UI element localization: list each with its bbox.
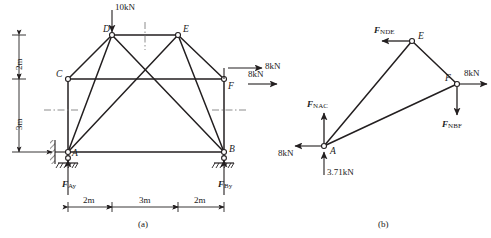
joint-b-F: [455, 82, 460, 87]
node-label-D: D: [103, 25, 110, 35]
node-label-A: A: [72, 149, 78, 159]
dim-label-3m-mid: 3m: [139, 196, 151, 205]
joint-E: [176, 33, 181, 38]
member-EF: [178, 35, 224, 79]
node-label-E: E: [183, 25, 189, 35]
reaction-subscript-Ay: Ay: [68, 182, 76, 190]
support-B-roller: [212, 156, 234, 168]
load-label-b-3p71kN: 3.71kN: [327, 168, 354, 177]
caption-a: (a): [138, 220, 148, 229]
force-subscript-NBF: NBF: [448, 122, 462, 130]
load-label-b-8kN-A: 8kN: [278, 149, 294, 158]
node-label-b-E: E: [418, 32, 424, 42]
member-b-AF: [324, 84, 457, 146]
joint-b-E: [410, 39, 415, 44]
panel-a-members: [68, 35, 224, 152]
force-label-NBF: FNBF: [442, 120, 462, 130]
reaction-subscript-By: By: [224, 182, 232, 190]
node-label-F: F: [228, 82, 234, 92]
load-label-b-8kN-right: 8kN: [464, 69, 480, 78]
caption-b: (b): [378, 220, 389, 229]
dim-label-2m-vertical: 2m: [15, 58, 24, 70]
load-label-8kN: 8kN: [265, 62, 281, 71]
reaction-label-Ay: FAy: [62, 180, 76, 190]
member-BD: [112, 35, 224, 152]
joint-b-A: [322, 144, 327, 149]
joint-A: [66, 150, 71, 155]
load-label-b-8kN-left: 8kN: [248, 70, 264, 79]
reaction-label-By: FBy: [218, 180, 232, 190]
force-label-NDE: FNDE: [374, 26, 395, 36]
vertical-dimension-chain: [12, 35, 52, 152]
node-label-b-F: F: [445, 74, 451, 84]
member-AD: [68, 35, 112, 152]
member-CD: [68, 35, 112, 79]
dim-label-2m-left: 2m: [83, 196, 95, 205]
load-label-10kN: 10kN: [115, 3, 135, 12]
joint-D: [110, 33, 115, 38]
member-BE: [178, 35, 224, 152]
force-label-NAC: FNAC: [307, 100, 328, 110]
panel-b-joints: [322, 39, 460, 149]
dim-label-2m-right: 2m: [194, 196, 206, 205]
joint-B: [222, 150, 227, 155]
dim-label-3m-vertical: 3m: [15, 118, 24, 130]
node-label-b-A: A: [330, 147, 336, 157]
joint-C: [66, 77, 71, 82]
node-label-B: B: [229, 145, 235, 155]
engineering-figure: D E C F A B 10kN 8kN FAy FBy 2m 3m 2m 3m…: [0, 0, 491, 238]
panel-b-members: [324, 41, 457, 146]
member-AE: [68, 35, 178, 152]
node-label-C: C: [56, 70, 62, 80]
force-subscript-NAC: NAC: [313, 102, 328, 110]
force-subscript-NDE: NDE: [380, 28, 395, 36]
member-b-AE: [324, 41, 412, 146]
